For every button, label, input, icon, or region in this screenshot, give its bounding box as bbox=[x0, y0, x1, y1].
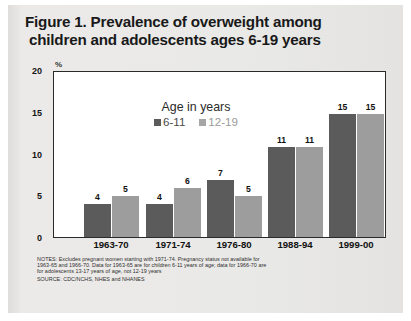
x-tick-label: 1988-94 bbox=[277, 239, 312, 250]
legend-item-6-11: 6-11 bbox=[154, 116, 185, 128]
legend: Age in years 6-1112-19 bbox=[121, 100, 271, 128]
plot-area: 45467511111515 Age in years 6-1112-19 bbox=[53, 71, 386, 238]
y-tick-label: 15 bbox=[32, 108, 42, 118]
legend-swatch-icon bbox=[154, 119, 161, 126]
y-axis: 05101520 bbox=[8, 65, 53, 245]
y-axis-unit-label: % bbox=[55, 60, 62, 69]
bar-value-label: 15 bbox=[338, 102, 348, 112]
legend-item-12-19: 12-19 bbox=[199, 116, 238, 128]
page-title: Figure 1. Prevalence of overweight among… bbox=[25, 13, 390, 48]
bar-12-19-1971-74: 6 bbox=[174, 188, 201, 237]
bar-12-19-1999-00: 15 bbox=[357, 114, 384, 237]
x-axis: 1963-701971-741976-801988-941999-00 bbox=[53, 239, 386, 253]
bar-6-11-1976-80: 7 bbox=[207, 180, 234, 237]
x-tick-label: 1963-70 bbox=[93, 239, 128, 250]
bar-value-label: 4 bbox=[157, 192, 162, 202]
bar-group: 1111 bbox=[268, 72, 324, 237]
title-line-2: children and adolescents ages 6-19 years bbox=[25, 31, 390, 49]
bar-6-11-1999-00: 15 bbox=[329, 114, 356, 237]
title-line-1: Figure 1. Prevalence of overweight among bbox=[25, 13, 390, 31]
footnotes: NOTES: Excludes pregnant women starting … bbox=[37, 256, 389, 282]
bar-group: 45 bbox=[84, 72, 140, 237]
bar-12-19-1976-80: 5 bbox=[235, 196, 262, 237]
bar-value-label: 7 bbox=[218, 168, 223, 178]
x-tick-label: 1971-74 bbox=[155, 239, 190, 250]
bar-6-11-1971-74: 4 bbox=[146, 204, 173, 237]
legend-items: 6-1112-19 bbox=[121, 116, 271, 128]
bar-6-11-1988-94: 11 bbox=[268, 147, 295, 237]
notes-line-3: for adolescents 13-17 years of age, not … bbox=[37, 268, 389, 274]
source-line: SOURCE: CDC/NCHS, NHES and NHANES bbox=[37, 276, 389, 282]
legend-label: 6-11 bbox=[163, 116, 185, 128]
bar-group: 46 bbox=[146, 72, 202, 237]
bar-value-label: 11 bbox=[277, 135, 286, 145]
bar-value-label: 4 bbox=[95, 192, 100, 202]
y-tick-label: 5 bbox=[37, 191, 42, 201]
bar-value-label: 6 bbox=[185, 176, 190, 186]
legend-swatch-icon bbox=[199, 119, 206, 126]
bar-value-label: 5 bbox=[246, 184, 251, 194]
bar-value-label: 11 bbox=[305, 135, 314, 145]
x-tick-label: 1976-80 bbox=[216, 239, 251, 250]
legend-title: Age in years bbox=[121, 100, 271, 114]
bar-value-label: 5 bbox=[123, 184, 128, 194]
y-tick-label: 0 bbox=[37, 233, 42, 243]
legend-label: 12-19 bbox=[208, 116, 238, 128]
y-tick-label: 20 bbox=[32, 66, 42, 76]
bar-value-label: 15 bbox=[366, 102, 376, 112]
bar-12-19-1963-70: 5 bbox=[112, 196, 139, 237]
bar-group: 1515 bbox=[329, 72, 385, 237]
figure-card: Figure 1. Prevalence of overweight among… bbox=[8, 5, 403, 313]
bar-group: 75 bbox=[207, 72, 263, 237]
bar-6-11-1963-70: 4 bbox=[84, 204, 111, 237]
bar-12-19-1988-94: 11 bbox=[296, 147, 323, 237]
y-tick-label: 10 bbox=[32, 150, 42, 160]
x-tick-label: 1999-00 bbox=[338, 239, 373, 250]
